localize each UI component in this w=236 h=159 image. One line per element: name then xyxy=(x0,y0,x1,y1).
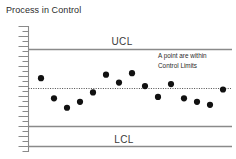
data-point-series xyxy=(38,70,226,111)
data-point xyxy=(51,95,57,101)
data-point xyxy=(129,70,135,76)
control-chart-screenshot: Process in Control xyxy=(0,0,236,159)
data-point xyxy=(207,102,213,108)
annotation-line-1: A point are within xyxy=(158,52,207,60)
annotation-line-2: Control Limits xyxy=(158,62,197,69)
data-point xyxy=(168,81,174,87)
ucl-label: UCL xyxy=(111,36,132,47)
lcl-label: LCL xyxy=(114,134,134,145)
data-point xyxy=(77,99,83,105)
data-point xyxy=(90,89,96,95)
data-point xyxy=(181,95,187,101)
data-point xyxy=(194,99,200,105)
data-point xyxy=(103,72,109,78)
data-point xyxy=(220,86,226,92)
data-point xyxy=(38,75,44,81)
data-point xyxy=(155,94,161,100)
y-axis-ticks xyxy=(19,27,29,152)
control-chart-plot: UCL LCL A point are within Control Limit… xyxy=(0,0,236,159)
data-point xyxy=(116,79,122,85)
data-point xyxy=(142,83,148,89)
data-point xyxy=(64,105,70,111)
